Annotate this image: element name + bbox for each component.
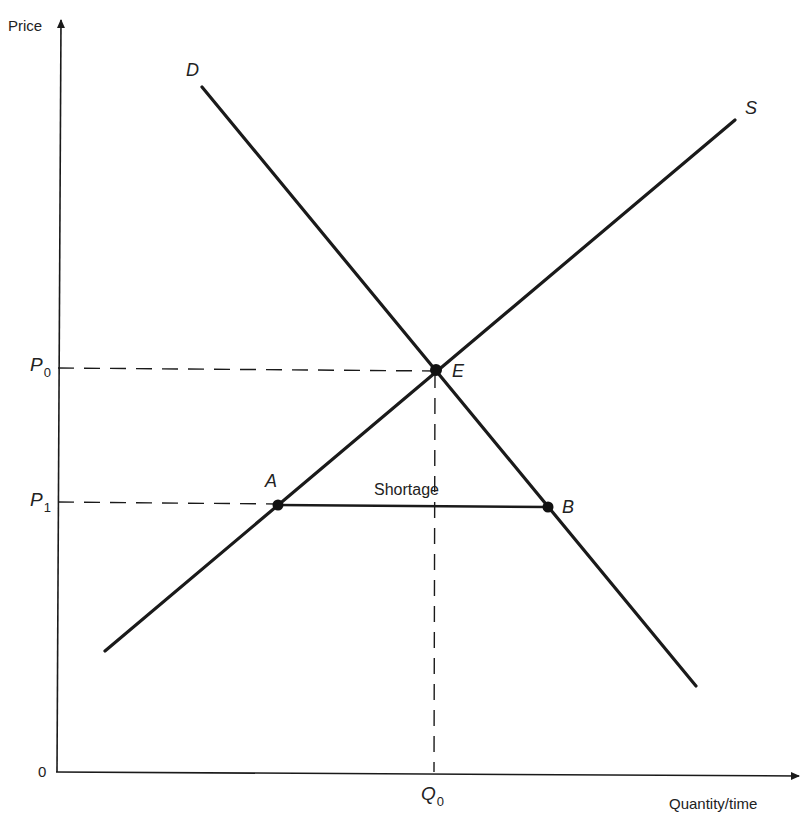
p0-guide-line <box>58 368 436 371</box>
x-axis <box>56 772 799 776</box>
y-axis <box>57 20 61 772</box>
diagram-canvas <box>0 0 806 822</box>
p0-subscript: 0 <box>44 365 51 380</box>
p1-guide-line <box>58 502 278 504</box>
point-b-label: B <box>562 498 574 516</box>
p1-main: P <box>30 489 43 510</box>
demand-label: D <box>186 61 199 79</box>
p1-label: P1 <box>30 490 51 509</box>
p0-label: P0 <box>30 355 51 374</box>
p0-main: P <box>30 354 43 375</box>
shortage-annotation: Shortage <box>374 482 439 498</box>
supply-label: S <box>745 99 757 117</box>
supply-curve <box>105 120 735 651</box>
point-a-label: A <box>265 472 277 490</box>
y-axis-label: Price <box>8 18 42 33</box>
point-e-label: E <box>452 362 464 380</box>
point-b <box>543 502 554 513</box>
origin-label: 0 <box>38 764 46 779</box>
x-axis-label: Quantity/time <box>669 796 757 811</box>
q0-main: Q <box>421 783 436 804</box>
q0-guide-line <box>434 372 435 772</box>
equilibrium-point-e <box>430 364 442 376</box>
p1-subscript: 1 <box>44 500 51 515</box>
shortage-segment <box>278 505 548 507</box>
point-a <box>273 500 284 511</box>
q0-label: Q0 <box>421 784 444 803</box>
q0-subscript: 0 <box>437 794 444 809</box>
demand-curve <box>202 87 696 686</box>
